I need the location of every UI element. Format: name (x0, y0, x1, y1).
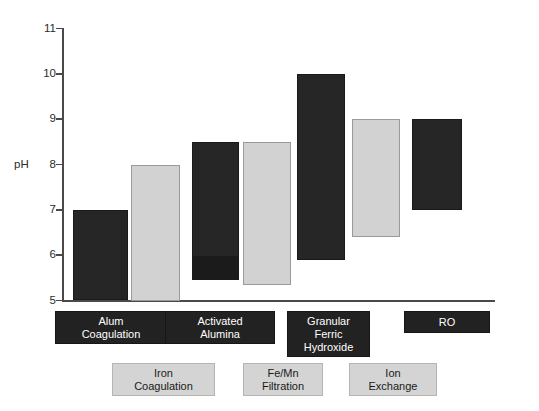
y-tick-5: 5 (0, 295, 56, 306)
legend-box-label: IonExchange (369, 367, 418, 393)
y-tick-mark (56, 254, 62, 256)
legend-box-alum-coagulation: AlumCoagulation (55, 311, 167, 344)
ph-range-chart: pH 111098765 AlumCoagulationActivatedAlu… (0, 0, 539, 411)
legend-label-line: Alumina (197, 328, 242, 341)
y-axis-line (62, 28, 64, 301)
y-tick-mark (56, 164, 62, 166)
y-tick-label: 11 (16, 23, 56, 34)
legend-box-ion-exchange: IonExchange (349, 363, 437, 396)
legend-box-granular-ferric-hydroxide: GranularFerricHydroxide (287, 311, 370, 357)
legend-box-label: Fe/MnFiltration (262, 367, 304, 393)
y-tick-mark (56, 73, 62, 75)
legend-label-line: Activated (197, 315, 242, 328)
bar-granular-ferric-hydroxide (297, 74, 345, 260)
y-tick-8: 8 (0, 159, 56, 170)
legend-box-label: IronCoagulation (134, 367, 193, 393)
y-tick-label: 9 (16, 113, 56, 124)
bar-alum-coagulation (73, 210, 128, 301)
legend-box-activated-alumina: ActivatedAlumina (165, 311, 275, 344)
y-tick-9: 9 (0, 113, 56, 124)
legend-label-line: Coagulation (134, 380, 193, 393)
legend-label-line: Ferric (304, 328, 354, 341)
legend-box-label: ActivatedAlumina (197, 315, 242, 341)
bar-activated-alumina (192, 142, 239, 280)
bar-fe-mn-filtration (243, 142, 291, 285)
y-tick-mark (56, 28, 62, 30)
y-tick-label: 7 (16, 204, 56, 215)
legend-label-line: Iron (134, 367, 193, 380)
y-tick-label: 10 (16, 68, 56, 79)
legend-label-line: RO (439, 316, 456, 329)
y-tick-label: 8 (16, 159, 56, 170)
legend-box-fe-mn-filtration: Fe/MnFiltration (243, 363, 323, 396)
y-tick-7: 7 (0, 204, 56, 215)
legend-label-line: Granular (304, 315, 354, 328)
y-tick-label: 5 (16, 295, 56, 306)
legend-box-iron-coagulation: IronCoagulation (112, 363, 215, 396)
legend-box-ro: RO (404, 311, 490, 333)
legend-label-line: Coagulation (82, 328, 141, 341)
y-tick-mark (56, 118, 62, 120)
y-tick-11: 11 (0, 23, 56, 34)
bar-ro (412, 119, 462, 210)
y-tick-mark (56, 209, 62, 211)
legend-box-label: RO (439, 316, 456, 329)
legend-box-label: GranularFerricHydroxide (304, 315, 354, 354)
y-tick-label: 6 (16, 249, 56, 260)
bar-iron-coagulation (131, 165, 180, 301)
legend-label-line: Filtration (262, 380, 304, 393)
legend-label-line: Fe/Mn (262, 367, 304, 380)
bar-ion-exchange (352, 119, 400, 237)
legend-label-line: Exchange (369, 380, 418, 393)
legend-box-label: AlumCoagulation (82, 315, 141, 341)
legend-label-line: Alum (82, 315, 141, 328)
y-tick-mark (56, 300, 62, 302)
bar-sub-segment (193, 256, 238, 279)
legend-label-line: Hydroxide (304, 341, 354, 354)
y-tick-10: 10 (0, 68, 56, 79)
legend-label-line: Ion (369, 367, 418, 380)
y-tick-6: 6 (0, 249, 56, 260)
